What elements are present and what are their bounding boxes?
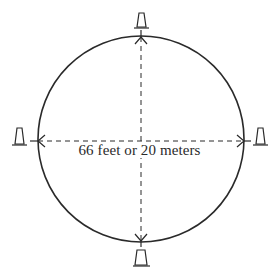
cone-icon-bottom xyxy=(133,250,150,266)
circle-diagram xyxy=(0,0,279,274)
cone-icon-top xyxy=(134,13,149,28)
diameter-label-text: 66 feet or 20 meters xyxy=(78,142,202,158)
diameter-label: 66 feet or 20 meters xyxy=(0,142,279,159)
